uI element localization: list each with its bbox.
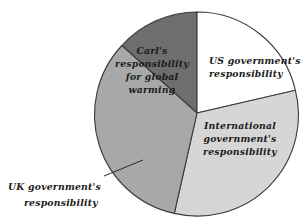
uk-label-line-1: UK government's <box>8 181 102 192</box>
pie-chart: Carl's responsibility for global warming… <box>0 0 307 223</box>
carls-label-line-3: for global <box>125 71 179 82</box>
us-label-line-2: responsibility <box>209 68 283 79</box>
intl-label-line-3: responsibility <box>203 146 277 157</box>
carls-label-line-1: Carl's <box>136 45 168 56</box>
intl-label-line-1: International <box>203 120 276 131</box>
carls-label-line-4: warming <box>129 84 176 95</box>
us-label-line-1: US government's <box>209 55 301 66</box>
uk-label-line-2: responsibility <box>24 197 98 208</box>
pie-chart-svg: Carl's responsibility for global warming… <box>0 0 307 223</box>
carls-label-line-2: responsibility <box>115 58 189 69</box>
slice-label-uk-government: UK government's responsibility <box>8 181 102 208</box>
slice-label-international-government: International government's responsibilit… <box>203 120 277 157</box>
intl-label-line-2: government's <box>204 133 278 144</box>
